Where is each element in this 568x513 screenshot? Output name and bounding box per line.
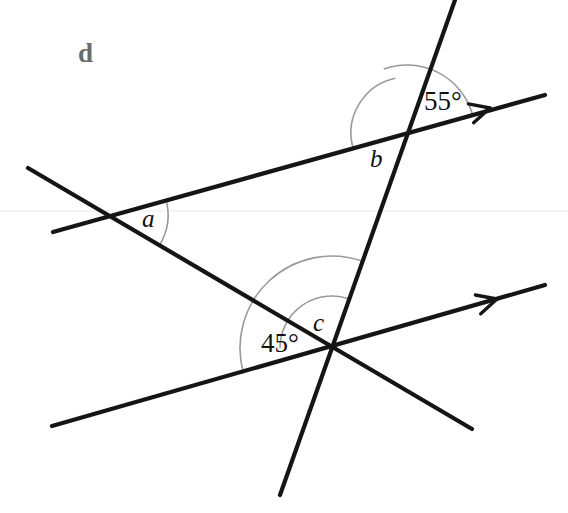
angle-label-a: a — [142, 206, 155, 231]
lower-parallel-ray-arrowhead — [475, 295, 497, 299]
geometry-diagram: d a b 55° c 45° — [0, 0, 568, 513]
angle-label-c: c — [313, 310, 324, 335]
geometry-canvas — [0, 0, 568, 513]
direction-arrows — [468, 104, 497, 314]
steep-transversal-line — [280, 0, 455, 495]
transversal-line — [28, 168, 472, 429]
angle-measure-45: 45° — [261, 330, 299, 357]
angle-label-b: b — [370, 146, 383, 171]
part-label-d: d — [78, 40, 93, 67]
angle-measure-55: 55° — [424, 88, 462, 115]
diagram-lines — [28, 0, 545, 495]
angle-arc-a — [160, 199, 168, 245]
upper-parallel-ray-arrowhead — [468, 104, 490, 108]
